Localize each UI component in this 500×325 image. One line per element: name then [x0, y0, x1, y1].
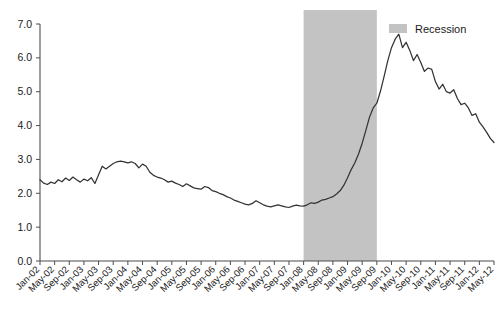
y-tick-label: 2.0 [17, 187, 32, 199]
recession-line-chart: 0.01.02.03.04.05.06.07.0 Jan-02May-02Sep… [0, 0, 500, 325]
x-axis: Jan-02May-02Sep-02Jan-03May-03Sep-03Jan-… [13, 261, 495, 294]
y-tick-label: 4.0 [17, 119, 32, 131]
y-axis: 0.01.02.03.04.05.06.07.0 [17, 18, 40, 267]
legend-swatch-recession [389, 24, 407, 33]
y-tick-label: 0.0 [17, 255, 32, 267]
y-tick-label: 1.0 [17, 221, 32, 233]
y-tick-label: 5.0 [17, 85, 32, 97]
y-axis-tick-labels: 0.01.02.03.04.05.06.07.0 [17, 18, 32, 267]
legend: Recession [389, 23, 466, 35]
y-tick-label: 6.0 [17, 51, 32, 63]
legend-label-recession: Recession [415, 23, 466, 35]
y-axis-tick-marks [36, 24, 40, 261]
y-tick-label: 3.0 [17, 153, 32, 165]
x-axis-tick-labels: Jan-02May-02Sep-02Jan-03May-03Sep-03Jan-… [13, 264, 495, 294]
recession-shaded-band [304, 10, 377, 261]
y-tick-label: 7.0 [17, 18, 32, 30]
chart-canvas: 0.01.02.03.04.05.06.07.0 Jan-02May-02Sep… [0, 0, 500, 325]
data-series-line [40, 34, 494, 207]
